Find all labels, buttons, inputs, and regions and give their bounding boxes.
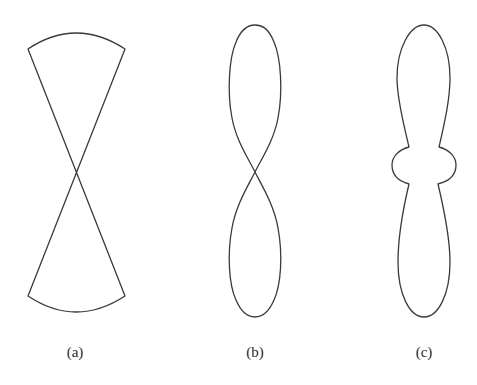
panel-a-shape	[28, 33, 125, 312]
panel-b-shape	[229, 25, 281, 317]
diagram-canvas	[0, 0, 477, 385]
panel-c-shape	[392, 25, 456, 317]
panel-b-label: (b)	[235, 344, 275, 361]
panel-a-label: (a)	[55, 344, 95, 361]
panel-c-label: (c)	[404, 344, 444, 361]
